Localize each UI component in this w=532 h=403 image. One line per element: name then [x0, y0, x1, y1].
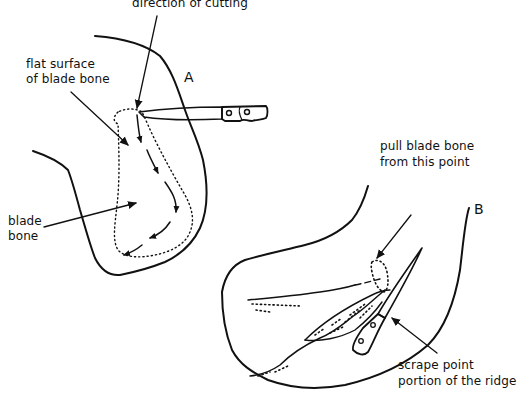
scrape-point-leader — [392, 318, 437, 353]
direction-of-cutting-leader — [137, 16, 157, 108]
pull-point-leader — [377, 215, 411, 258]
panel-a-knife-icon — [139, 106, 268, 121]
blade-bone-label-line1: blade — [8, 214, 42, 229]
pull-point-label-line1: pull blade bone — [380, 139, 474, 154]
panel-b-label: B — [474, 202, 484, 217]
panel-a-cutting-arrows — [124, 115, 176, 255]
blade-bone-leader — [44, 203, 136, 227]
panel-b-pull-point — [371, 260, 388, 292]
panel-a-blade-bone-outline — [114, 109, 192, 257]
flat-surface-leader — [71, 92, 128, 145]
panel-a-label: A — [184, 70, 194, 85]
pull-point-label-line2: from this point — [380, 155, 470, 170]
blade-bone-removal-diagram: direction of cutting flat surface of bla… — [0, 0, 532, 403]
scrape-point-label-line1: scrape point — [398, 358, 474, 373]
direction-of-cutting-label: direction of cutting — [132, 0, 248, 11]
panel-b-knife-icon — [353, 248, 422, 354]
flat-surface-label-line1: flat surface — [26, 57, 95, 72]
blade-bone-label-line2: bone — [8, 229, 38, 244]
flat-surface-label-line2: of blade bone — [26, 72, 110, 87]
panel-b-ridge-stipple — [250, 290, 390, 376]
scrape-point-label-line2: portion of the ridge — [398, 374, 516, 389]
